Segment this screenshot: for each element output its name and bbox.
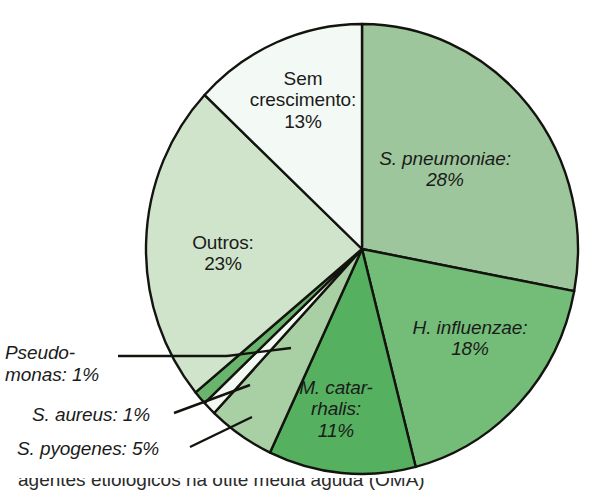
figure-caption-clip: agentes etiológicos na otite média aguda… [0, 478, 599, 498]
slice-label-sem-crescimento: Sem crescimento: 13% [228, 68, 378, 132]
slice-label-h-influenzae: H. influenzae: 18% [385, 317, 555, 360]
slice-label-outros: Outros: 23% [158, 232, 288, 275]
callout-label-pseudomonas: Pseudo- monas: 1% [5, 342, 99, 386]
figure-caption: agentes etiológicos na otite média aguda… [18, 478, 425, 491]
callout-label-s-pyogenes: S. pyogenes: 5% [17, 438, 159, 460]
callout-label-s-aureus: S. aureus: 1% [32, 404, 150, 426]
slice-label-m-catarrhalis: M. catar- rhalis: 11% [281, 377, 391, 441]
slice-label-s-pneumoniae: S. pneumoniae: 28% [345, 148, 545, 191]
pie-chart-figure: S. pneumoniae: 28%H. influenzae: 18%M. c… [0, 0, 599, 498]
